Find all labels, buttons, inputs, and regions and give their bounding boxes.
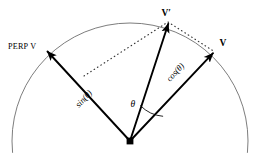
label-theta: θ bbox=[131, 99, 136, 109]
label-v: V bbox=[220, 38, 227, 48]
vector-v-prime bbox=[130, 24, 168, 141]
origin-point bbox=[127, 138, 134, 145]
vector-rotation-diagram: PERP V V′ V sin(θ) cos(θ) θ bbox=[0, 0, 260, 153]
label-cos-theta: cos(θ) bbox=[164, 61, 186, 84]
vector-v bbox=[130, 53, 213, 141]
diagram-canvas: PERP V V′ V sin(θ) cos(θ) θ bbox=[0, 0, 260, 153]
label-perp-v: PERP V bbox=[8, 42, 36, 51]
label-v-prime: V′ bbox=[162, 8, 172, 18]
construction-line-perp-to-vprime bbox=[84, 22, 168, 76]
unit-circle-arc bbox=[12, 23, 248, 153]
construction-line-vprime-to-v bbox=[168, 22, 215, 52]
